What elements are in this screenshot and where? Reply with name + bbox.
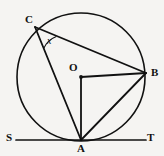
label-tangent-t: T	[147, 132, 154, 143]
geometry-figure: O A B C S T x	[0, 0, 164, 156]
center-point-dot	[79, 75, 83, 79]
segment-ab	[81, 73, 146, 140]
segment-ob	[81, 73, 146, 77]
label-point-a: A	[77, 143, 85, 154]
label-center-o: O	[69, 62, 78, 73]
label-point-b: B	[151, 67, 158, 78]
label-angle-x: x	[47, 36, 51, 46]
label-tangent-s: S	[6, 132, 12, 143]
label-point-c: C	[25, 14, 33, 25]
